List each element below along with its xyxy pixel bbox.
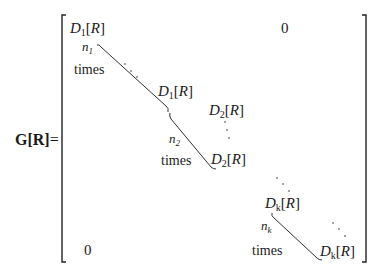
block-2-count: n2	[169, 132, 180, 148]
right-bracket-icon	[362, 15, 366, 262]
block-k-times-label: times	[252, 244, 282, 258]
lower-left-zero: 0	[84, 243, 92, 258]
block-2-times-label: times	[161, 154, 191, 168]
block-2-bottom-entry: D2[R]	[211, 152, 246, 169]
block-1-bottom-entry: D1[R]	[158, 84, 193, 101]
block-1-count: n1	[82, 40, 93, 56]
left-bracket-icon	[62, 15, 66, 262]
block-k-bottom-entry: Dk[R]	[320, 244, 355, 261]
block-1-times-label: times	[74, 63, 104, 77]
block-2-top-entry: D2[R]	[209, 103, 244, 120]
block-k-top-entry: Dk[R]	[265, 196, 300, 213]
matrix-brackets	[0, 0, 384, 273]
block-1-top-entry: D1[R]	[70, 21, 105, 38]
upper-right-zero: 0	[281, 21, 289, 36]
brace-1-icon	[97, 45, 168, 112]
block-k-count: nk	[261, 219, 272, 235]
